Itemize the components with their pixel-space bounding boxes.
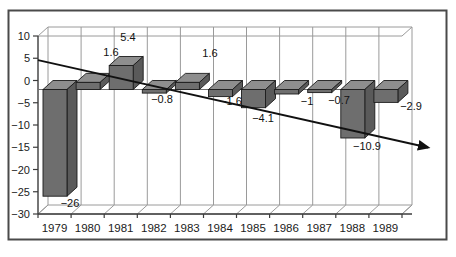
bar-1979: [43, 81, 77, 197]
x-tick-label: 1983: [174, 222, 200, 234]
bar-1981: [109, 57, 143, 90]
bar-value-label: −1.6: [220, 95, 242, 107]
bar-value-label: −10.9: [353, 140, 381, 152]
y-tick-label: 0: [24, 75, 30, 87]
y-tick-label: −20: [11, 164, 30, 176]
bar-value-label: 5.4: [120, 31, 135, 43]
bar-1985: [242, 81, 276, 108]
bar-chart: 10 5 0 −5 −10 −15 −20 −25 −30: [0, 0, 456, 257]
x-tick-label: 1984: [207, 222, 233, 234]
x-tick-label: 1979: [42, 222, 68, 234]
y-tick-label: −5: [17, 97, 30, 109]
x-tick-label: 1985: [240, 222, 266, 234]
y-tick-label: 5: [24, 52, 30, 64]
x-tick-label: 1989: [373, 222, 399, 234]
bar-value-label: −26: [61, 197, 80, 209]
x-tick-label: 1982: [141, 222, 167, 234]
bar-value-label: 1.6: [202, 47, 217, 59]
bar-value-label: 1.6: [103, 46, 118, 58]
y-tick-label: −30: [11, 208, 30, 220]
bar-value-label: −0.8: [151, 93, 173, 105]
bar-value-label: −1: [301, 95, 314, 107]
x-tick-label: 1980: [75, 222, 101, 234]
bar-value-label: −0.7: [328, 94, 350, 106]
x-tick-label: 1988: [340, 222, 366, 234]
chart-container: 10 5 0 −5 −10 −15 −20 −25 −30: [0, 0, 456, 257]
bar-value-label: −2.9: [400, 100, 422, 112]
x-tick-label: 1987: [306, 222, 332, 234]
y-tick-label: −10: [11, 119, 30, 131]
x-tick-label: 1986: [273, 222, 299, 234]
y-tick-label: 10: [18, 30, 30, 42]
bar-value-label: −4.1: [252, 112, 274, 124]
y-tick-label: −25: [11, 186, 30, 198]
y-tick-label: −15: [11, 141, 30, 153]
x-tick-label: 1981: [108, 222, 134, 234]
